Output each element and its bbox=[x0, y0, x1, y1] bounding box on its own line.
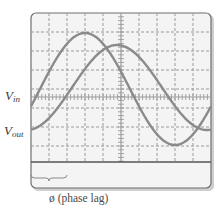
vin-label: Vin bbox=[5, 89, 20, 104]
phase-lag-caption: ø (phase lag) bbox=[49, 192, 108, 204]
vout-label-main: V bbox=[4, 123, 12, 138]
vout-label: Vout bbox=[4, 124, 23, 139]
vin-label-main: V bbox=[5, 88, 13, 103]
oscilloscope-screen bbox=[0, 0, 223, 209]
vin-label-sub: in bbox=[13, 94, 20, 104]
vout-label-sub: out bbox=[12, 129, 24, 139]
oscilloscope-figure: Vin Vout ø (phase lag) bbox=[0, 0, 223, 209]
